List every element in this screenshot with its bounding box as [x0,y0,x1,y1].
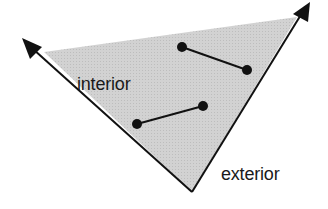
left-arrowhead-icon [22,38,42,59]
angle-diagram: interior exterior [0,0,328,209]
point-icon [242,65,252,75]
point-icon [177,42,187,52]
interior-label: interior [77,74,130,95]
point-icon [198,101,208,111]
exterior-label: exterior [221,164,279,185]
point-icon [132,119,142,129]
